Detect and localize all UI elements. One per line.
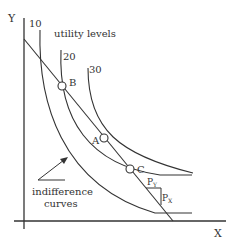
annotation-arrow-shaft (38, 160, 64, 180)
point-b-marker (58, 82, 66, 90)
utility-levels-label: utility levels (54, 28, 116, 39)
point-c-label: C (137, 164, 145, 175)
curve-label-10: 10 (29, 18, 42, 29)
point-a-label: A (91, 135, 100, 146)
price-x-label: PX (162, 193, 173, 204)
point-b-label: B (69, 77, 76, 88)
point-c-marker (126, 165, 134, 173)
price-y-label: PY (147, 177, 158, 188)
annotation-line1: indifference (32, 186, 93, 197)
indifference-curve-30 (88, 68, 193, 173)
point-a-marker (100, 134, 108, 142)
y-axis-label: Y (7, 12, 16, 25)
curve-label-20: 20 (63, 51, 76, 62)
arrow-head-icon (60, 157, 68, 164)
curve-label-30: 30 (89, 64, 102, 75)
annotation-line2: curves (44, 198, 78, 209)
diagram-svg: Y X 10 20 30 utility levels PY PX B A C … (0, 0, 239, 245)
indifference-curve-diagram: Y X 10 20 30 utility levels PY PX B A C … (0, 0, 239, 245)
x-axis-label: X (214, 227, 222, 240)
indifference-curve-20 (61, 50, 192, 175)
